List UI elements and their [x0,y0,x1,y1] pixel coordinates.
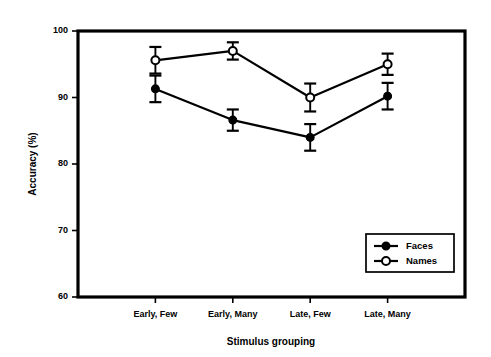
legend-label-0: Faces [406,240,433,251]
y-axis-title: Accuracy (%) [27,132,38,195]
y-tick-label: 60 [58,291,68,301]
y-tick-label: 70 [58,225,68,235]
marker-open-circle [306,94,314,102]
marker-open-circle [151,56,159,64]
legend-marker-filled-circle [382,242,390,250]
accuracy-line-chart: 60708090100 Early, FewEarly, ManyLate, F… [0,0,491,357]
marker-filled-circle [306,134,314,142]
legend-marker-open-circle [382,257,390,265]
y-tick-label: 80 [58,158,68,168]
chart-background [0,0,491,357]
marker-filled-circle [384,92,392,100]
x-tick-label: Late, Many [364,309,411,319]
chart-legend: FacesNames [366,234,454,272]
y-tick-label: 100 [53,25,68,35]
x-tick-label: Early, Few [133,309,178,319]
marker-filled-circle [229,116,237,124]
x-tick-label: Late, Few [290,309,332,319]
marker-open-circle [384,60,392,68]
marker-filled-circle [152,85,160,93]
y-tick-label: 90 [58,92,68,102]
legend-label-1: Names [406,255,437,266]
marker-open-circle [229,47,237,55]
x-tick-label: Early, Many [208,309,257,319]
x-axis-title: Stimulus grouping [227,336,315,347]
chart-figure: 60708090100 Early, FewEarly, ManyLate, F… [0,0,491,357]
